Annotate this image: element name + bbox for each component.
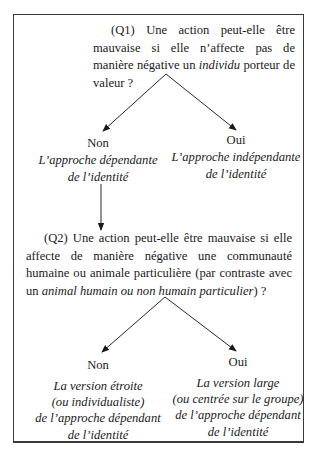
arrow-q2-to-non: [102, 297, 165, 352]
q1-answer-oui: Oui L’approche indépendante de l’identit…: [168, 132, 304, 183]
q2-answer-non-label: Non: [28, 357, 168, 374]
q2-answer-oui-desc-4: de l’identité: [168, 424, 308, 440]
q2-answer-oui-label: Oui: [168, 354, 308, 371]
q2-answer-non-desc-2: (ou individualiste): [28, 394, 168, 410]
q1-answer-non-desc-2: de l’identité: [33, 169, 163, 186]
q2-answer-non-desc-1: La version étroite: [28, 378, 168, 394]
q1-answer-oui-label: Oui: [168, 132, 304, 149]
question-2-suffix: ) ?: [253, 284, 266, 298]
q2-answer-oui-desc-3: de l’approche dépendant: [168, 407, 308, 423]
arrow-q2-to-oui: [165, 297, 236, 351]
question-2-emphasis: animal humain ou non humain particulier: [42, 284, 254, 298]
q2-answer-non-desc-3: de l’approche dépendant: [28, 410, 168, 426]
q1-answer-non-label: Non: [33, 135, 163, 152]
question-1-emphasis: individu: [199, 58, 240, 72]
q2-answer-oui-desc-2: (ou centrée sur le groupe): [168, 391, 308, 407]
q2-answer-oui-desc-1: La version large: [168, 375, 308, 391]
q2-answer-oui: Oui La version large (ou centrée sur le …: [168, 354, 308, 440]
q2-answer-non: Non La version étroite (ou individualist…: [28, 357, 168, 443]
question-1: (Q1) Une action peut-elle être mauvaise …: [93, 22, 295, 92]
q1-answer-oui-desc-1: L’approche indépendante: [168, 149, 304, 166]
q1-answer-non: Non L’approche dépendante de l’identité: [33, 135, 163, 186]
q2-answer-non-desc-4: de l’identité: [28, 427, 168, 443]
question-2: (Q2) Une action peut-elle être mauvaise …: [26, 230, 292, 300]
q1-answer-oui-desc-2: de l’identité: [168, 166, 304, 183]
q1-answer-non-desc-1: L’approche dépendante: [33, 152, 163, 169]
